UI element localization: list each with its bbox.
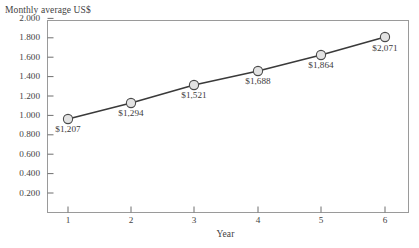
x-axis-title: Year: [0, 229, 419, 239]
data-point-label: $1,521: [171, 90, 217, 100]
data-point-label: $1,294: [108, 108, 154, 118]
data-point-label: $1,688: [235, 76, 281, 86]
chart-page: Monthly average US$: [0, 0, 419, 248]
data-point-label: $1,864: [298, 60, 344, 70]
data-point-labels: $1,207 $1,294 $1,521 $1,688 $1,864 $2,07…: [0, 0, 419, 248]
data-point-label: $2,071: [362, 43, 408, 53]
data-point-label: $1,207: [45, 124, 91, 134]
